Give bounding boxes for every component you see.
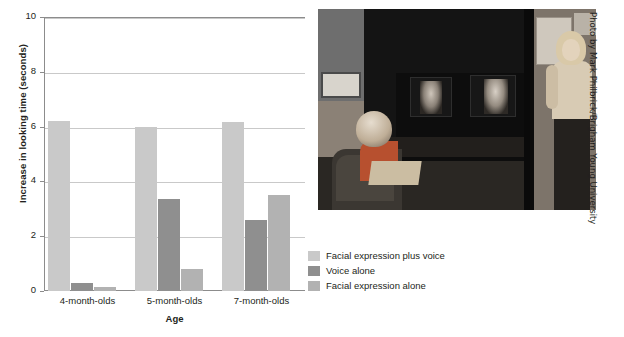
photo-doorway [524, 9, 534, 210]
photo-wall-picture-frame [321, 72, 361, 98]
bar-5-month-olds-voice-alone [158, 199, 180, 291]
legend-item-label: Facial expression plus voice [326, 250, 445, 261]
y-axis-tick-mark [40, 17, 44, 18]
x-axis-tick-label: 7-month-olds [207, 295, 317, 306]
legend-swatch-series-2 [308, 281, 320, 291]
bar-4-month-olds-facial-expression-alone [94, 287, 116, 291]
y-axis-tick-mark [40, 291, 44, 292]
legend-swatch-series-1 [308, 266, 320, 276]
legend-item: Voice alone [308, 263, 445, 278]
y-axis-tick-label: 8 [6, 65, 36, 76]
legend-swatch-series-0 [308, 251, 320, 261]
x-axis-label: Age [44, 313, 305, 324]
bar-7-month-olds-voice-alone [245, 220, 267, 291]
photo-infant-head [356, 111, 392, 147]
bar-5-month-olds-facial-expression-plus-voice [135, 127, 157, 291]
gridline [45, 73, 305, 74]
gridline [45, 182, 305, 183]
bar-5-month-olds-facial-expression-alone [181, 269, 203, 291]
photo-researcher-arm [546, 65, 558, 109]
gridline [45, 128, 305, 129]
photo-highchair-tray [368, 161, 421, 185]
bar-7-month-olds-facial-expression-alone [268, 195, 290, 291]
photo-face-image-right [484, 79, 508, 114]
legend-item-label: Facial expression alone [326, 280, 426, 291]
bar-4-month-olds-facial-expression-plus-voice [48, 121, 70, 291]
gridline [45, 18, 305, 19]
y-axis-tick-label: 2 [6, 229, 36, 240]
legend-item: Facial expression plus voice [308, 248, 445, 263]
y-axis-tick-label: 10 [6, 10, 36, 21]
y-axis-tick-label: 6 [6, 120, 36, 131]
photo-panel [318, 9, 596, 210]
bar-4-month-olds-voice-alone [71, 283, 93, 291]
chart-legend: Facial expression plus voiceVoice aloneF… [308, 248, 445, 293]
lab-photo-image [318, 9, 596, 210]
photo-credit: Photo by Mark Philbrick/Brigham Young Un… [584, 12, 598, 222]
y-axis-tick-label: 4 [6, 174, 36, 185]
y-axis-tick-mark [40, 181, 44, 182]
y-axis-tick-label: 0 [6, 284, 36, 295]
legend-item-label: Voice alone [326, 265, 375, 276]
y-axis-tick-mark [40, 127, 44, 128]
photo-researcher-face [562, 39, 580, 61]
y-axis-tick-mark [40, 72, 44, 73]
legend-item: Facial expression alone [308, 278, 445, 293]
bar-7-month-olds-facial-expression-plus-voice [222, 122, 244, 291]
y-axis-tick-mark [40, 236, 44, 237]
photo-face-image-left [420, 81, 442, 114]
bar-chart-panel: Increase in looking time (seconds) 02468… [0, 0, 312, 337]
